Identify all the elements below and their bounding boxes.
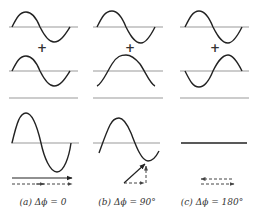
caption-b: (b) Δϕ = 90° — [87, 197, 167, 207]
column-b — [93, 11, 163, 183]
wave-b-result — [99, 118, 159, 161]
column-c — [180, 11, 249, 184]
column-a — [9, 12, 79, 184]
interference-diagram — [0, 0, 255, 214]
plus-sign-a: + — [37, 42, 47, 54]
caption-a: (a) Δϕ = 0 — [3, 197, 83, 207]
phasor-b-resultant — [124, 164, 145, 183]
plus-sign-c: + — [210, 42, 220, 54]
plus-sign-b: + — [125, 42, 135, 54]
caption-c: (c) Δϕ = 180° — [172, 197, 252, 207]
